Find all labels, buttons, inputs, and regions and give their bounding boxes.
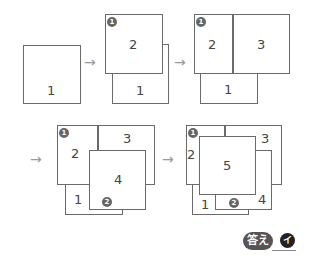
arrow-icon: → [174,55,186,69]
step5-badge-1: 1 [188,128,198,138]
step3-divider [232,14,234,74]
step5-label-4: 4 [258,193,266,206]
answer-underline [272,250,296,251]
step3-label-1: 1 [224,83,232,96]
step3-label-2: 2 [208,38,216,51]
arrow-icon: → [30,152,42,166]
step5-badge-2: 2 [229,198,239,208]
answer-label: 答え [243,232,273,250]
step3-badge-1: 1 [196,17,206,27]
step2-label-1: 1 [136,84,144,97]
step1-label-1: 1 [47,84,55,97]
answer-value: イ [280,233,295,248]
step4-label-4: 4 [114,173,122,186]
step5-label-2: 2 [187,148,195,161]
step5-label-3: 3 [261,132,269,145]
step4-badge-2: 2 [102,197,112,207]
step2-badge-1: 1 [107,17,117,27]
step4-label-2: 2 [71,147,79,160]
arrow-icon: → [162,152,174,166]
step4-badge-1: 1 [59,128,69,138]
step5-label-1: 1 [201,198,209,211]
step3-label-3: 3 [257,38,265,51]
step5-label-5: 5 [223,159,231,172]
step4-label-1: 1 [74,193,82,206]
step2-label-2: 2 [129,38,137,51]
step4-label-3: 3 [123,132,131,145]
arrow-icon: → [84,55,96,69]
